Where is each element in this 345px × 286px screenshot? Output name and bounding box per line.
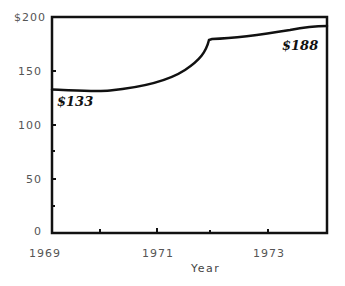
chart-canvas: $133 $188 xyxy=(0,0,345,286)
y-tick-label: 100 xyxy=(2,119,42,132)
y-tick-label: $200 xyxy=(6,11,46,24)
y-tick-label: 50 xyxy=(2,173,42,186)
annotation-start-price: $133 xyxy=(57,94,93,109)
x-axis-title: Year xyxy=(191,262,220,275)
y-tick-label: 150 xyxy=(2,65,42,78)
y-tick-label: 0 xyxy=(2,225,42,238)
x-tick-label: 1971 xyxy=(133,247,183,260)
x-tick-label: 1969 xyxy=(20,247,70,260)
annotation-end-price: $188 xyxy=(282,38,318,53)
price-line xyxy=(52,26,327,91)
x-tick-label: 1973 xyxy=(244,247,294,260)
